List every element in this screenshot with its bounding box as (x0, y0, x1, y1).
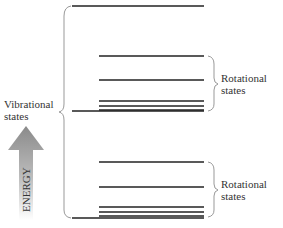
energy-levels (72, 6, 204, 218)
rotational-brace-lower (208, 162, 218, 217)
vibrational-brace (59, 6, 71, 218)
rotational-brace-upper (208, 56, 218, 111)
energy-label: ENERGY (20, 167, 32, 212)
rotational-label-lower: Rotational states (221, 178, 267, 202)
vibrational-label: Vibrational states (4, 98, 53, 122)
rotational-label-upper: Rotational states (221, 72, 267, 96)
